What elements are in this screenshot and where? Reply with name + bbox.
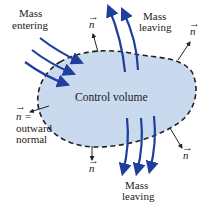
flow-arrow-icon [40, 38, 80, 62]
svg-text:leaving: leaving [122, 190, 155, 202]
normal-arrow-icon [170, 128, 182, 148]
svg-text:n: n [89, 18, 95, 30]
svg-text:n =: n = [16, 110, 32, 122]
mass-leaving-top-label: Mass leaving [139, 10, 172, 33]
svg-text:entering: entering [12, 19, 49, 31]
svg-text:leaving: leaving [139, 21, 172, 33]
mass-leaving-bottom-label: Mass leaving [122, 179, 155, 202]
svg-text:n: n [190, 25, 196, 37]
normal-label-top-left: → n [88, 10, 99, 30]
svg-text:normal: normal [16, 133, 47, 145]
normal-arrow-icon [178, 42, 190, 60]
normal-label-bottom: → n [88, 154, 99, 174]
svg-text:n: n [183, 149, 189, 161]
normal-label-bottom-right: → n [182, 141, 193, 161]
svg-text:Mass: Mass [19, 7, 42, 19]
control-volume-label: Control volume [75, 91, 148, 103]
normal-label-top-right: → n [189, 17, 200, 37]
svg-text:n: n [89, 162, 95, 174]
mass-entering-label: Mass entering [12, 7, 49, 31]
normal-arrow-icon [93, 34, 98, 52]
control-volume-diagram: Control volume Mass entering Mass leavin… [0, 0, 205, 211]
